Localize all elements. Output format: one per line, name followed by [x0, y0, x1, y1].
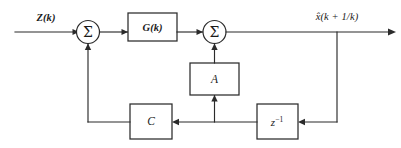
- output-signal-label: x̂(k + 1/k): [316, 12, 358, 23]
- block-diagram-canvas: Z(k) x̂(k + 1/k) Σ Σ G(k) A C z−1: [0, 0, 401, 148]
- arrowhead-into-sum2-bottom: [211, 44, 217, 51]
- arrowhead-into-sum2-left: [197, 29, 204, 35]
- arrowhead-into-delay: [298, 119, 305, 125]
- arrowhead-into-sum1-bottom: [85, 44, 91, 51]
- input-signal-label: Z(k): [36, 13, 55, 24]
- gain-block-c-label: C: [147, 116, 155, 128]
- arrowhead-into-gain-g: [122, 29, 129, 35]
- gain-block-a-label: A: [211, 74, 218, 86]
- summing-junction-1-label: Σ: [83, 25, 93, 39]
- arrowhead-output: [388, 29, 396, 36]
- summing-junction-2-label: Σ: [210, 25, 220, 39]
- delay-exponent: −1: [275, 114, 283, 123]
- arrowhead-into-gain-a: [211, 95, 217, 102]
- arrowhead-into-gain-c: [172, 119, 179, 125]
- delay-block-z-label: z−1: [271, 115, 283, 128]
- gain-block-g-label: G(k): [143, 22, 163, 33]
